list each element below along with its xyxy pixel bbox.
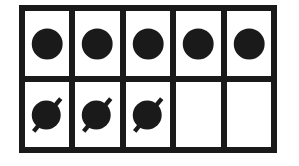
filled-circle-icon [25, 21, 69, 67]
filled-circle-with-slash-icon [75, 92, 119, 138]
grid-cell-r1c1[interactable] [25, 11, 75, 76]
symbol-grid-table [19, 5, 277, 153]
grid-cell-r2c2[interactable] [75, 82, 125, 147]
grid-cell-r2c3[interactable] [126, 82, 176, 147]
grid-cell-r2c4[interactable] [176, 82, 226, 147]
filled-circle-icon [75, 21, 119, 67]
figure-canvas [0, 0, 299, 166]
grid-cell-r2c1[interactable] [25, 82, 75, 147]
filled-circle-icon [227, 21, 271, 67]
filled-circle-icon [176, 21, 220, 67]
grid-cell-r2c5[interactable] [227, 82, 271, 147]
filled-circle-icon [126, 21, 170, 67]
filled-circle-with-slash-icon [25, 92, 69, 138]
grid-cell-r1c4[interactable] [176, 11, 226, 76]
filled-circle-with-slash-icon [126, 92, 170, 138]
grid-cell-r1c2[interactable] [75, 11, 125, 76]
grid-cell-r1c3[interactable] [126, 11, 176, 76]
grid-cell-r1c5[interactable] [227, 11, 271, 76]
table-row [25, 82, 271, 147]
table-row [25, 11, 271, 82]
